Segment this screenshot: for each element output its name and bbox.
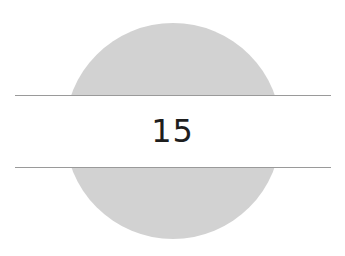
- top-rule-line: [15, 95, 331, 96]
- bottom-rule-line: [15, 167, 331, 168]
- chapter-number: 15: [0, 112, 345, 150]
